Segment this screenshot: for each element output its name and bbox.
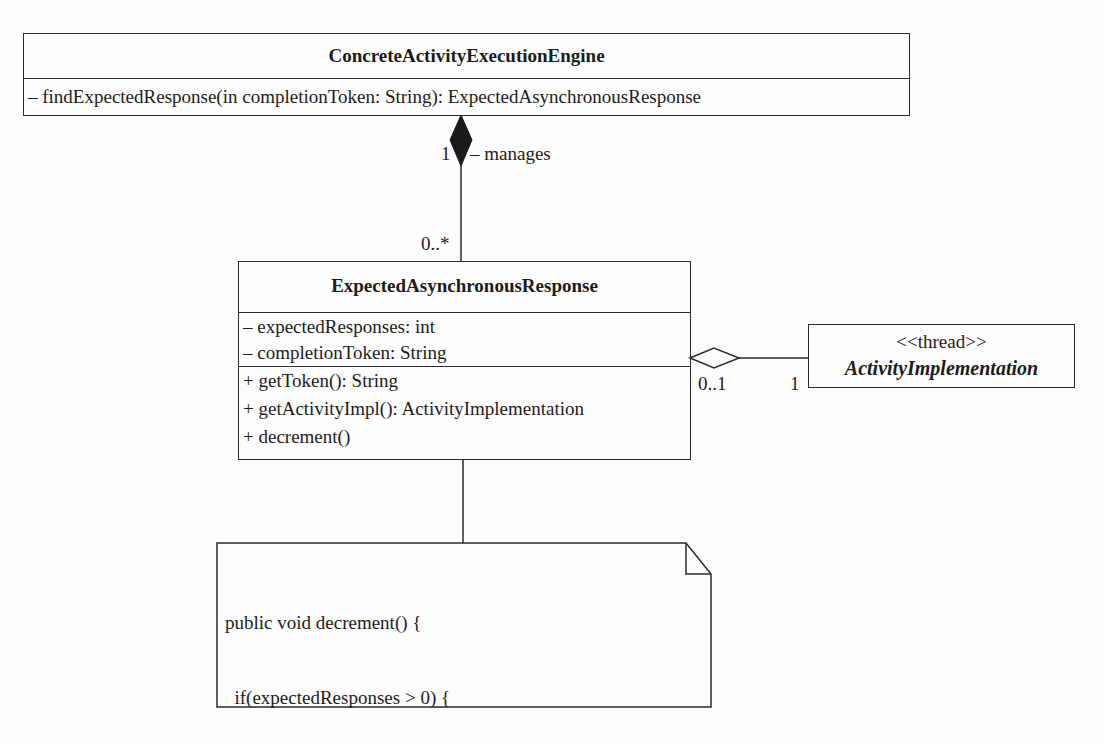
multiplicity-aggregate-side: 0..1 [698, 373, 727, 395]
operation-get-token: + getToken(): String [239, 367, 690, 395]
stereotype-label: <<thread>> [809, 329, 1074, 355]
hollow-diamond-icon [690, 348, 739, 368]
operation-decrement: + decrement() [239, 423, 690, 451]
note-decrement-code: public void decrement() { if(expectedRes… [225, 560, 695, 744]
attribute-expected-responses: – expectedResponses: int [239, 313, 690, 340]
multiplicity-response-side: 0..* [421, 233, 450, 255]
class-concrete-activity-execution-engine[interactable]: ConcreteActivityExecutionEngine – findEx… [23, 33, 910, 116]
note-line: if(expectedResponses > 0) { [225, 685, 695, 710]
filled-diamond-icon [450, 115, 472, 166]
class-name: ConcreteActivityExecutionEngine [24, 34, 909, 79]
class-activity-implementation[interactable]: <<thread>> ActivityImplementation [808, 324, 1075, 388]
class-expected-asynchronous-response[interactable]: ExpectedAsynchronousResponse – expectedR… [238, 261, 691, 460]
operations-compartment: + getToken(): String + getActivityImpl()… [239, 367, 690, 451]
role-label-manages: – manages [470, 143, 551, 165]
operation-find-expected-response: – findExpectedResponse(in completionToke… [24, 83, 909, 111]
class-name: ActivityImplementation [809, 355, 1074, 381]
multiplicity-activity-side: 1 [790, 373, 800, 395]
class-name: ExpectedAsynchronousResponse [239, 262, 690, 313]
attributes-compartment: – expectedResponses: int – completionTok… [239, 313, 690, 367]
operations-compartment: – findExpectedResponse(in completionToke… [24, 79, 909, 111]
multiplicity-engine-side: 1 [441, 143, 451, 165]
operation-get-activity-impl: + getActivityImpl(): ActivityImplementat… [239, 395, 690, 423]
note-line: public void decrement() { [225, 610, 695, 635]
attribute-completion-token: – completionToken: String [239, 340, 690, 365]
